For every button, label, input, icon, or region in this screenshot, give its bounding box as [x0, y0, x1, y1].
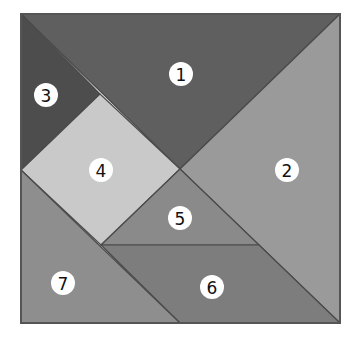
- label-number: 5: [175, 209, 186, 229]
- label-number: 4: [96, 161, 107, 181]
- piece-label-2: 2: [275, 158, 299, 182]
- piece-label-1: 1: [169, 62, 193, 86]
- tangram-diagram: 1234567: [0, 0, 360, 345]
- label-number: 1: [176, 65, 187, 85]
- label-number: 3: [41, 86, 52, 106]
- label-number: 6: [207, 278, 218, 298]
- piece-label-5: 5: [168, 206, 192, 230]
- label-number: 2: [282, 161, 293, 181]
- piece-label-7: 7: [51, 271, 75, 295]
- piece-label-3: 3: [34, 83, 58, 107]
- piece-label-6: 6: [200, 275, 224, 299]
- label-number: 7: [58, 274, 69, 294]
- piece-label-4: 4: [89, 158, 113, 182]
